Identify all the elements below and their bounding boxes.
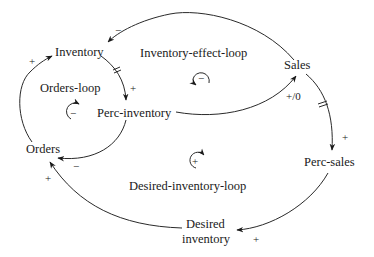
node-desired-inventory-line2: inventory <box>182 232 231 246</box>
polarity-sales-to-inventory: − <box>115 24 121 36</box>
node-sales: Sales <box>284 58 311 72</box>
polarity-sales-to-perc-sales: + <box>342 131 348 143</box>
loop-icon-orders: − <box>66 103 79 119</box>
node-inventory: Inventory <box>55 45 104 59</box>
loop-polarity-inventory-effect: − <box>198 72 204 84</box>
loop-label-desired-inventory: Desired-inventory-loop <box>129 179 246 193</box>
polarity-desired-inventory-to-orders: + <box>45 172 51 184</box>
edge-perc-inventory-to-orders <box>58 120 126 159</box>
loop-polarity-desired-inventory: + <box>192 155 198 167</box>
node-desired-inventory-line1: Desired <box>186 217 226 231</box>
causal-loop-diagram: − − + Inventory Sales Perc-inventory Ord… <box>0 0 374 257</box>
loop-icon-desired-inventory: + <box>190 152 204 168</box>
node-perc-inventory: Perc-inventory <box>97 106 172 120</box>
polarity-perc-inventory-to-sales: +/0 <box>286 90 301 102</box>
loop-label-inventory-effect: Inventory-effect-loop <box>140 46 247 60</box>
polarity-orders-to-inventory: + <box>29 55 35 67</box>
polarity-perc-sales-to-desired-inventory: + <box>253 233 259 245</box>
edge-desired-inventory-to-orders <box>50 162 182 228</box>
polarity-inventory-to-perc-inventory: + <box>130 82 136 94</box>
polarity-perc-inventory-to-orders: − <box>73 160 79 172</box>
loop-label-orders: Orders-loop <box>40 81 100 95</box>
loop-icon-inventory-effect: − <box>193 72 209 85</box>
node-orders: Orders <box>26 142 60 156</box>
edge-inventory-to-perc-inventory <box>101 56 126 100</box>
edge-sales-to-perc-sales <box>306 74 332 150</box>
loop-polarity-orders: − <box>70 107 76 119</box>
node-perc-sales: Perc-sales <box>304 155 355 169</box>
edge-orders-to-inventory <box>20 56 52 142</box>
edge-perc-sales-to-desired-inventory <box>237 173 328 230</box>
delay-mark-sales-perc-sales <box>318 101 328 107</box>
